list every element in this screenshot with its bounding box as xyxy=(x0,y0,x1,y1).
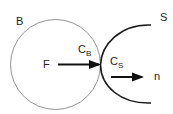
label-cb-sub: B xyxy=(86,49,91,58)
label-cs-sub: S xyxy=(118,61,123,70)
label-cb-main: C xyxy=(78,43,86,55)
label-cb: CB xyxy=(78,44,91,55)
label-s: S xyxy=(160,12,167,23)
body-s-curve xyxy=(101,25,152,103)
label-cs-main: C xyxy=(110,55,118,67)
label-b: B xyxy=(16,16,23,27)
label-f: F xyxy=(43,59,50,70)
label-cs: CS xyxy=(110,56,123,67)
label-n: n xyxy=(154,71,160,82)
